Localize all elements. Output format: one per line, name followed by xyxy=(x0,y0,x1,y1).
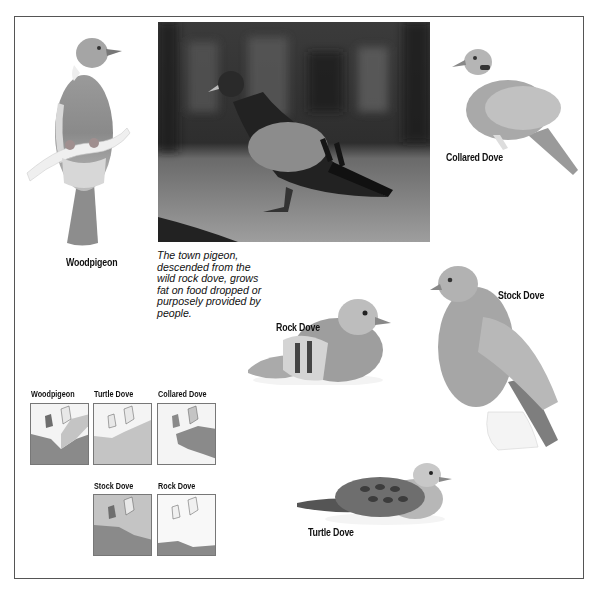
collared-dove-label: Collared Dove xyxy=(446,152,503,163)
turtle-dove-illustration xyxy=(295,457,455,527)
map-rock-dove xyxy=(157,494,216,556)
map-label-rock-dove: Rock Dove xyxy=(158,481,195,491)
town-pigeon-photo xyxy=(158,22,430,242)
map-collared-dove xyxy=(157,403,216,465)
stock-dove-label: Stock Dove xyxy=(498,290,544,301)
map-label-turtle-dove: Turtle Dove xyxy=(94,389,133,399)
woodpigeon-illustration xyxy=(22,33,132,248)
map-turtle-dove xyxy=(93,403,152,465)
rock-dove-illustration xyxy=(243,295,393,385)
rock-dove-label: Rock Dove xyxy=(276,322,320,333)
turtle-dove-label: Turtle Dove xyxy=(308,527,354,538)
map-woodpigeon xyxy=(30,403,89,465)
woodpigeon-label: Woodpigeon xyxy=(66,257,117,268)
caption-line: The town pigeon, xyxy=(157,250,292,262)
map-stock-dove xyxy=(93,494,152,556)
map-label-woodpigeon: Woodpigeon xyxy=(31,389,75,399)
map-label-collared-dove: Collared Dove xyxy=(158,389,207,399)
map-label-stock-dove: Stock Dove xyxy=(94,481,133,491)
